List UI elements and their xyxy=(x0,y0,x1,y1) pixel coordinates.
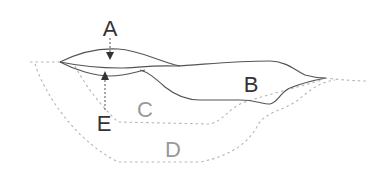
label-d: D xyxy=(165,137,181,162)
arrow-e xyxy=(101,71,109,110)
region-d-outline xyxy=(35,64,335,162)
lens-a-lower xyxy=(60,62,175,68)
label-c: C xyxy=(137,97,153,122)
region-c-outline xyxy=(75,66,322,124)
diagram-canvas: A B C D E xyxy=(0,0,386,171)
label-b: B xyxy=(244,72,259,97)
label-a: A xyxy=(103,16,118,41)
diagram-svg: A B C D E xyxy=(0,0,386,171)
body-b-outline xyxy=(140,61,326,104)
lens-a-upper xyxy=(60,49,180,66)
label-e: E xyxy=(97,111,112,136)
